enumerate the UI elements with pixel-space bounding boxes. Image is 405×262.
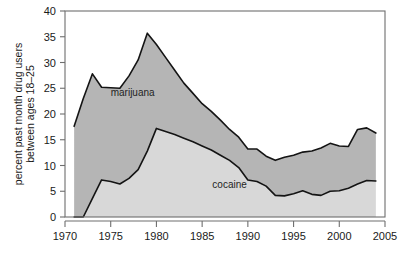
x-tick-label: 1990 [236, 230, 260, 242]
x-tick-label: 1970 [53, 230, 77, 242]
y-tick-label: 10 [44, 160, 56, 172]
y-tick-label: 35 [44, 31, 56, 43]
x-tick-label: 1985 [190, 230, 214, 242]
annotation-marijuana: marijuana [111, 87, 155, 98]
x-tick-label: 1995 [281, 230, 305, 242]
x-tick-label: 2005 [373, 230, 397, 242]
y-axis-title: percent past month drug users between ag… [12, 43, 36, 185]
x-tick-label: 1980 [144, 230, 168, 242]
y-tick-label: 40 [44, 5, 56, 17]
y-tick-label: 25 [44, 82, 56, 94]
y-axis-title-line2: between ages 18–25 [24, 65, 36, 163]
x-tick-label: 1975 [98, 230, 122, 242]
y-axis-title-line1: percent past month drug users [12, 43, 24, 185]
y-tick-label: 0 [50, 211, 56, 223]
y-tick-label: 5 [50, 185, 56, 197]
y-tick-label: 15 [44, 134, 56, 146]
x-tick-label: 2000 [327, 230, 351, 242]
x-axis: 19701975198019851990199520002005 [53, 221, 397, 242]
annotation-cocaine: cocaine [212, 179, 247, 190]
y-tick-label: 30 [44, 57, 56, 69]
chart-figure: 0510152025303540 19701975198019851990199… [0, 0, 405, 262]
y-axis: 0510152025303540 [44, 5, 65, 223]
area-chart: 0510152025303540 19701975198019851990199… [0, 0, 405, 262]
y-tick-label: 20 [44, 108, 56, 120]
